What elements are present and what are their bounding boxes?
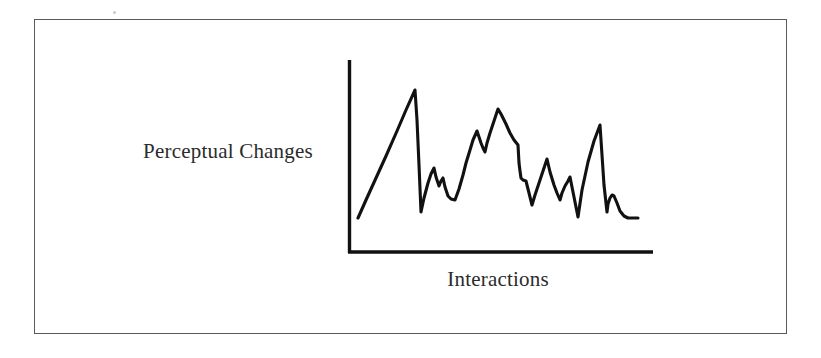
line-chart-figure: Perceptual Changes Interactions	[0, 0, 821, 358]
chart-plot	[0, 0, 821, 358]
x-axis-label: Interactions	[373, 266, 623, 292]
y-axis-label: Perceptual Changes	[122, 138, 334, 164]
data-series-line	[358, 90, 638, 218]
